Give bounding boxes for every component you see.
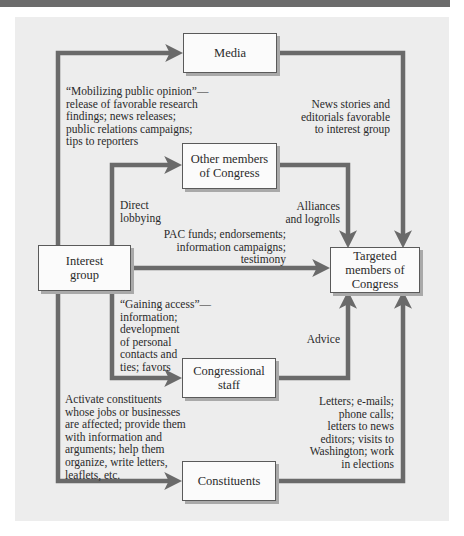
edge-label-direct-lobbying: Direct lobbying xyxy=(120,199,161,224)
node-other-members-line: of Congress xyxy=(191,166,268,180)
label-line: of personal xyxy=(120,336,211,349)
label-line: development xyxy=(120,323,211,336)
node-media: Media xyxy=(183,33,277,73)
node-targeted-members: Targeted members of Congress xyxy=(330,247,420,293)
edge-label-gaining-access: “Gaining access”— information; developme… xyxy=(120,298,211,374)
label-line: ties; favors xyxy=(120,361,211,374)
label-line: “Gaining access”— xyxy=(120,298,211,311)
label-line: PAC funds; endorsements; xyxy=(164,228,286,241)
edge-label-mobilizing: “Mobilizing public opinion”— release of … xyxy=(66,85,208,148)
label-line: release of favorable research xyxy=(66,98,208,111)
node-constituents: Constituents xyxy=(182,461,276,501)
edge-label-alliances: Alliances and logrolls xyxy=(285,200,340,225)
label-line: leaflets, etc. xyxy=(65,469,186,482)
node-targeted-line: members of xyxy=(345,263,404,277)
edge-label-news-stories: News stories and editorials favorable to… xyxy=(301,98,390,136)
label-line: and logrolls xyxy=(285,213,340,226)
label-line: Advice xyxy=(307,333,340,346)
node-media-label: Media xyxy=(214,46,246,60)
edge-label-advice: Advice xyxy=(307,333,340,346)
label-line: phone calls; xyxy=(310,408,394,421)
label-line: editorials favorable xyxy=(301,111,390,124)
node-interest-group-line: Interest xyxy=(66,254,103,268)
node-targeted-line: Targeted xyxy=(345,249,404,263)
label-line: contacts and xyxy=(120,348,211,361)
label-line: public relations campaigns; xyxy=(66,123,208,136)
label-line: whose jobs or businesses xyxy=(65,406,186,419)
node-other-members-line: Other members xyxy=(191,152,268,166)
node-interest-group-line: group xyxy=(66,268,103,282)
label-line: News stories and xyxy=(301,98,390,111)
label-line: Washington; work xyxy=(310,445,394,458)
label-line: Letters; e-mails; xyxy=(310,395,394,408)
label-line: information; xyxy=(120,311,211,324)
label-line: tips to reporters xyxy=(66,135,208,148)
label-line: testimony xyxy=(164,253,286,266)
node-interest-group: Interest group xyxy=(38,245,131,291)
label-line: Activate constituents xyxy=(65,393,186,406)
label-line: are affected; provide them xyxy=(65,418,186,431)
label-line: arguments; help them xyxy=(65,443,186,456)
node-targeted-line: Congress xyxy=(345,277,404,291)
label-line: editors; visits to xyxy=(310,433,394,446)
label-line: “Mobilizing public opinion”— xyxy=(66,85,208,98)
node-staff-line: staff xyxy=(193,378,265,392)
label-line: letters to news xyxy=(310,420,394,433)
label-line: information campaigns; xyxy=(164,241,286,254)
node-other-members: Other members of Congress xyxy=(182,143,277,189)
edge-label-activate-constituents: Activate constituents whose jobs or busi… xyxy=(65,393,186,481)
node-constituents-label: Constituents xyxy=(198,474,261,488)
label-line: organize, write letters, xyxy=(65,456,186,469)
label-line: Direct xyxy=(120,199,161,212)
label-line: with information and xyxy=(65,431,186,444)
label-line: lobbying xyxy=(120,212,161,225)
label-line: Alliances xyxy=(285,200,340,213)
label-line: findings; news releases; xyxy=(66,110,208,123)
edge-label-letters: Letters; e-mails; phone calls; letters t… xyxy=(310,395,394,471)
label-line: to interest group xyxy=(301,123,390,136)
edge-label-pac-funds: PAC funds; endorsements; information cam… xyxy=(164,228,286,266)
label-line: in elections xyxy=(310,458,394,471)
